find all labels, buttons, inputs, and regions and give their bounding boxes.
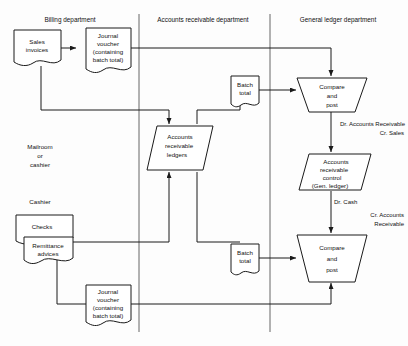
journal-voucher-top-label-2: voucher — [97, 40, 119, 47]
checks-label: Checks — [32, 223, 53, 230]
ar-ledgers-label-3: ledgers — [167, 151, 187, 158]
batch-total-bottom-label-1: Batch — [237, 249, 253, 256]
ar-ledgers-label-1: Accounts — [167, 133, 192, 140]
remittance-advices-label-2: advices — [38, 250, 59, 257]
compare-post-top-label-2: and — [327, 92, 338, 99]
journal-voucher-top-label-4: batch total) — [93, 56, 124, 63]
journal-voucher-bottom-label-4: batch total) — [93, 312, 124, 319]
batch-total-bottom-label-2: total — [239, 257, 251, 264]
batch-total-top-label-1: Batch — [237, 81, 253, 88]
mailroom-note-line-2: or — [37, 152, 43, 159]
compare-post-bottom-label-3: post — [326, 266, 338, 273]
compare-post-bottom-label-2: and — [327, 255, 338, 262]
mailroom-note-line-3: cashier — [30, 161, 50, 168]
compare-post-top-label-1: Compare — [319, 83, 345, 90]
compare-post-top-label-3: post — [326, 101, 338, 108]
mailroom-note-line-1: Mailroom — [27, 143, 52, 150]
sales-invoices-label-2: invoices — [26, 46, 48, 53]
entry-cash-line-2: Cr. Accounts — [370, 212, 404, 218]
entry-sales-line-2: Cr. Sales — [380, 130, 404, 136]
journal-voucher-bottom-label-1: Journal — [98, 288, 118, 295]
batch-total-top-label-2: total — [239, 89, 251, 96]
entry-sales-line-1: Dr. Accounts Receivable — [340, 121, 406, 127]
node-batch-total-bottom[interactable]: Batch total — [231, 244, 259, 275]
node-ar-control[interactable]: Accounts receivable control (Gen. ledger… — [299, 154, 371, 190]
journal-voucher-top-label-3: (containing — [93, 48, 124, 55]
node-ar-ledgers[interactable]: Accounts receivable ledgers — [147, 126, 213, 170]
ar-control-label-1: Accounts — [323, 158, 348, 165]
entry-cash-line-1: Dr. Cash — [334, 199, 357, 205]
sales-invoices-label-1: Sales — [29, 38, 44, 45]
ar-ledgers-label-2: receivable — [165, 142, 194, 149]
node-sales-invoices[interactable]: Sales invoices — [14, 30, 61, 66]
node-journal-voucher-bottom[interactable]: Journal voucher (containing batch total) — [86, 285, 131, 326]
node-compare-post-bottom[interactable]: Compare and post — [297, 235, 367, 282]
journal-voucher-top-label-1: Journal — [98, 32, 118, 39]
compare-post-bottom-label-1: Compare — [319, 244, 345, 251]
journal-voucher-bottom-label-3: (containing — [93, 304, 124, 311]
flowchart-canvas: Billing department Accounts receivable d… — [0, 0, 408, 346]
column-header-accounts-receivable: Accounts receivable department — [157, 16, 249, 24]
entry-cash-line-3: Receivable — [374, 221, 404, 227]
remittance-advices-label-1: Remittance — [32, 242, 64, 249]
column-header-general-ledger: General ledger department — [300, 16, 377, 24]
ar-control-label-4: (Gen. ledger) — [312, 182, 348, 189]
column-header-billing: Billing department — [44, 16, 95, 24]
cashier-note: Cashier — [29, 198, 50, 205]
node-compare-post-top[interactable]: Compare and post — [297, 78, 367, 112]
ar-control-label-3: control — [323, 174, 342, 181]
node-journal-voucher-top[interactable]: Journal voucher (containing batch total) — [86, 28, 131, 73]
ar-control-label-2: receivable — [320, 166, 349, 173]
journal-voucher-bottom-label-2: voucher — [97, 296, 119, 303]
node-batch-total-top[interactable]: Batch total — [231, 76, 259, 107]
